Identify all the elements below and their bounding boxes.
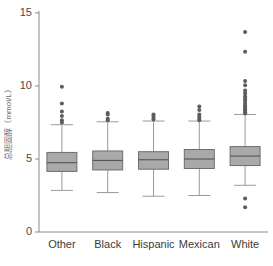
x-tick-label-white: White <box>231 238 259 250</box>
x-tick-label-black: Black <box>94 238 121 250</box>
outlier-point <box>243 111 247 115</box>
outlier-point <box>60 114 64 118</box>
outlier-point <box>60 121 64 125</box>
y-axis-title: 总胆固醇（mmol/L） <box>3 85 13 159</box>
x-axis: OtherBlackHispanicMexicanWhite <box>39 232 268 250</box>
boxplot-mexican <box>184 104 214 195</box>
y-axis: 051015 <box>20 6 39 237</box>
y-tick-label: 0 <box>26 225 32 237</box>
outlier-point <box>106 112 110 116</box>
outlier-point <box>243 30 247 34</box>
outlier-point <box>152 118 156 122</box>
x-tick-label-other: Other <box>48 238 76 250</box>
outlier-point <box>106 118 110 122</box>
plot-area: 051015 OtherBlackHispanicMexicanWhite 总胆… <box>0 0 273 266</box>
y-axis-label-text: 总胆固醇（mmol/L） <box>3 85 13 159</box>
y-tick-label: 10 <box>20 79 32 91</box>
outlier-point <box>60 102 64 106</box>
outlier-point <box>243 79 247 83</box>
y-tick-label: 15 <box>20 6 32 18</box>
boxplot-other <box>47 85 77 191</box>
boxplot-chart: 051015 OtherBlackHispanicMexicanWhite 总胆… <box>0 0 273 266</box>
box-series <box>47 30 260 209</box>
x-tick-label-mexican: Mexican <box>179 238 220 250</box>
outlier-point <box>60 110 64 114</box>
y-tick-label: 5 <box>26 152 32 164</box>
box-iqr <box>139 152 169 170</box>
x-tick-label-hispanic: Hispanic <box>132 238 175 250</box>
outlier-point <box>197 104 201 108</box>
boxplot-hispanic <box>139 112 169 196</box>
outlier-point <box>243 50 247 54</box>
outlier-point <box>243 83 247 87</box>
boxplot-white <box>230 30 260 209</box>
boxplot-black <box>93 111 123 193</box>
outlier-point <box>197 108 201 112</box>
box-iqr <box>47 152 77 171</box>
outlier-point <box>60 85 64 89</box>
outlier-point <box>243 196 247 200</box>
outlier-point <box>243 205 247 209</box>
outlier-point <box>197 118 201 122</box>
